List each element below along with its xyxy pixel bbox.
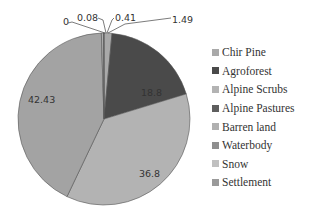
legend-swatch-icon — [212, 179, 219, 186]
legend-swatch-icon — [212, 49, 219, 56]
legend-item-alpine-pastures: Alpine Pastures — [212, 99, 295, 118]
legend-item-snow: Snow — [212, 155, 295, 174]
legend-swatch-icon — [212, 67, 219, 74]
legend-item-chir-pine: Chir Pine — [212, 43, 295, 62]
label-barren-land: 0.41 — [115, 12, 136, 23]
label-snow: 0 — [63, 16, 69, 27]
legend-item-waterbody: Waterbody — [212, 136, 295, 155]
label-alpine-pastures: 42.43 — [28, 94, 55, 105]
label-chir-pine: 1.49 — [172, 14, 193, 25]
legend-label: Alpine Scrubs — [222, 83, 287, 95]
legend: Chir Pine Agroforest Alpine Scrubs Alpin… — [212, 43, 295, 192]
legend-label: Settlement — [222, 176, 271, 188]
legend-item-agroforest: Agroforest — [212, 62, 295, 81]
pie-slices — [18, 33, 190, 205]
legend-item-settlement: Settlement — [212, 173, 295, 192]
legend-swatch-icon — [212, 142, 219, 149]
legend-label: Alpine Pastures — [222, 102, 295, 114]
leader-line — [68, 22, 105, 33]
label-waterbody: 0.08 — [77, 12, 98, 23]
legend-swatch-icon — [212, 160, 219, 167]
legend-label: Chir Pine — [222, 46, 266, 58]
legend-item-barren-land: Barren land — [212, 117, 295, 136]
legend-label: Waterbody — [222, 139, 272, 151]
legend-swatch-icon — [212, 86, 219, 93]
label-alpine-scrubs: 36.8 — [139, 168, 160, 179]
legend-item-alpine-scrubs: Alpine Scrubs — [212, 80, 295, 99]
legend-swatch-icon — [212, 123, 219, 130]
legend-label: Snow — [222, 158, 248, 170]
legend-label: Agroforest — [222, 65, 272, 77]
legend-label: Barren land — [222, 121, 276, 133]
label-agroforest: 18.8 — [141, 87, 162, 98]
legend-swatch-icon — [212, 105, 219, 112]
